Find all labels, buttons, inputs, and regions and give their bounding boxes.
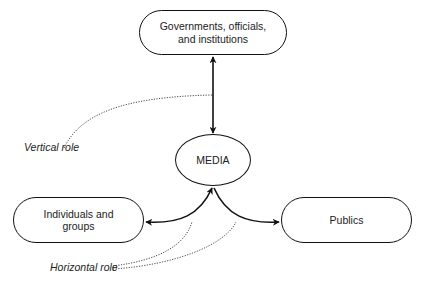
individuals-node: Individuals and groups [13, 197, 144, 243]
vertical-role-label: Vertical role [24, 141, 79, 153]
individuals-line-2: groups [43, 220, 113, 233]
horizontal-role-label: Horizontal role [50, 261, 118, 273]
publics-node: Publics [281, 197, 412, 243]
media-label: MEDIA [196, 154, 229, 167]
governments-line-1: Governments, officials, [160, 20, 267, 33]
individuals-line-1: Individuals and [43, 208, 113, 221]
media-node: MEDIA [175, 134, 251, 186]
publics-label: Publics [330, 214, 364, 227]
governments-node: Governments, officials, and institutions [139, 10, 287, 55]
right-curved-arrow [214, 188, 279, 222]
left-curved-arrow [146, 188, 212, 222]
governments-line-2: and institutions [160, 33, 267, 46]
